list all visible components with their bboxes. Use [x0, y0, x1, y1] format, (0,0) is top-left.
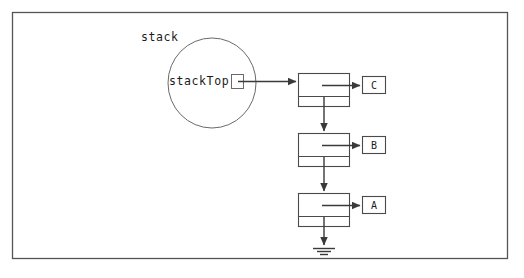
node-a-data-label: A	[371, 200, 377, 211]
stacktop-pointer-label: stackTop	[169, 74, 229, 88]
diagram-canvas: stack stackTop C B A	[0, 0, 524, 278]
stack-linked-list-diagram: stack stackTop C B A	[0, 0, 524, 278]
node-c-data-label: C	[371, 80, 377, 91]
node-b-data-label: B	[371, 140, 377, 151]
stack-object-label: stack	[141, 30, 179, 44]
figure-border	[13, 13, 508, 259]
